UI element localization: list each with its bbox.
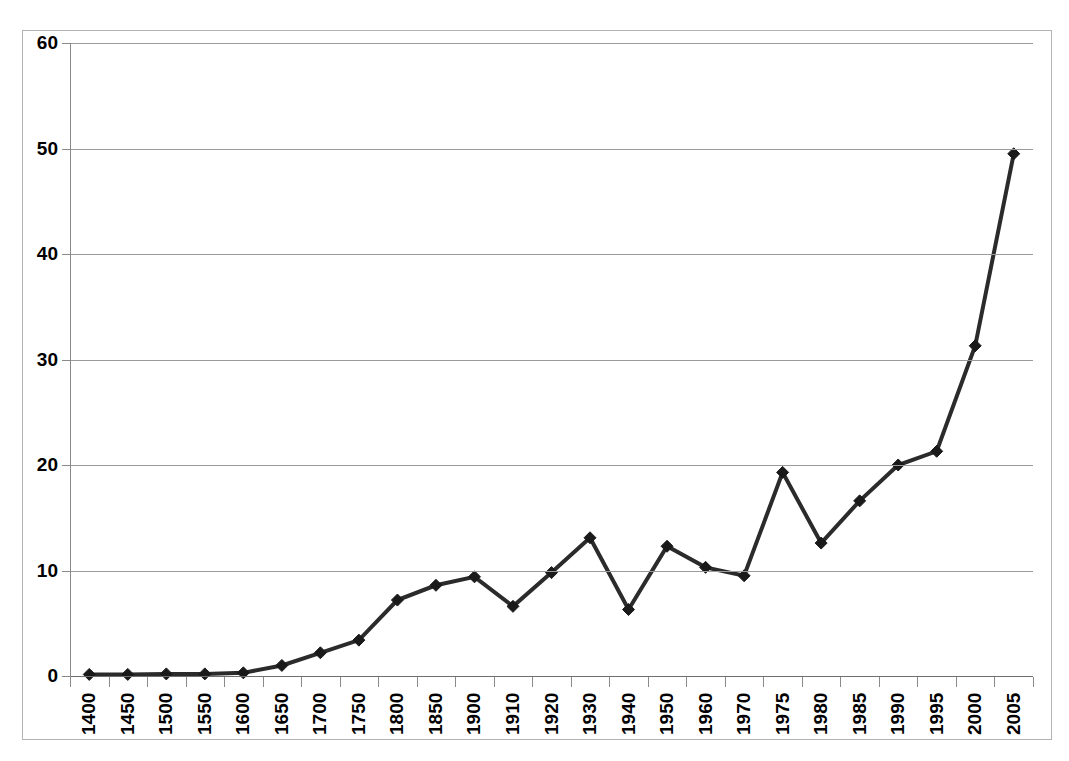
x-axis-tick-16 — [686, 677, 687, 687]
x-axis-tick-14 — [609, 677, 610, 687]
x-axis-label-1550: 1550 — [195, 665, 214, 735]
x-axis-tick-24 — [994, 677, 995, 687]
x-axis-label-1500: 1500 — [156, 665, 175, 735]
x-axis-tick-21 — [879, 677, 880, 687]
x-axis-label-1400: 1400 — [79, 665, 98, 735]
gridline-40 — [70, 254, 1033, 255]
x-axis-tick-12 — [532, 677, 533, 687]
x-axis-tick-13 — [571, 677, 572, 687]
y-axis-tick-60 — [62, 43, 71, 44]
x-axis-label-1750: 1750 — [349, 665, 368, 735]
x-axis-label-1650: 1650 — [272, 665, 291, 735]
x-axis-label-2005: 2005 — [1004, 665, 1023, 735]
x-axis-tick-15 — [648, 677, 649, 687]
x-axis-label-2000: 2000 — [965, 665, 984, 735]
y-axis-label-0: 0 — [18, 666, 58, 685]
data-point-2000 — [969, 340, 981, 352]
line-chart: 0102030405060 14001450150015501600165017… — [0, 0, 1069, 761]
data-point-1995 — [931, 445, 943, 457]
y-axis-label-20: 20 — [18, 455, 58, 474]
x-axis-label-1920: 1920 — [542, 665, 561, 735]
x-axis-tick-23 — [956, 677, 957, 687]
y-axis-label-50: 50 — [18, 139, 58, 158]
x-axis-label-1850: 1850 — [426, 665, 445, 735]
x-axis-tick-17 — [725, 677, 726, 687]
y-axis-label-40: 40 — [18, 244, 58, 263]
x-axis-label-1940: 1940 — [619, 665, 638, 735]
gridline-10 — [70, 571, 1033, 572]
x-axis-tick-25 — [1033, 677, 1034, 687]
x-axis-label-1995: 1995 — [927, 665, 946, 735]
x-axis-label-1970: 1970 — [734, 665, 753, 735]
x-axis-label-1985: 1985 — [850, 665, 869, 735]
y-axis-tick-20 — [62, 465, 71, 466]
x-axis-tick-19 — [802, 677, 803, 687]
x-axis-label-1910: 1910 — [503, 665, 522, 735]
x-axis-label-1975: 1975 — [773, 665, 792, 735]
x-axis-label-1980: 1980 — [811, 665, 830, 735]
x-axis-tick-11 — [494, 677, 495, 687]
y-axis-tick-50 — [62, 149, 71, 150]
data-point-2005 — [1008, 148, 1020, 160]
plot-area — [70, 43, 1033, 676]
x-axis-label-1990: 1990 — [888, 665, 907, 735]
y-axis-label-10: 10 — [18, 561, 58, 580]
x-axis-label-1800: 1800 — [387, 665, 406, 735]
x-axis-label-1930: 1930 — [580, 665, 599, 735]
x-axis-tick-9 — [417, 677, 418, 687]
y-axis-labels: 0102030405060 — [10, 0, 58, 761]
x-axis-tick-4 — [224, 677, 225, 687]
x-axis-tick-22 — [917, 677, 918, 687]
x-axis-label-1600: 1600 — [233, 665, 252, 735]
x-axis-label-1450: 1450 — [118, 665, 137, 735]
gridline-60 — [70, 43, 1033, 44]
x-axis-tick-7 — [340, 677, 341, 687]
x-axis-tick-10 — [455, 677, 456, 687]
x-axis-tick-5 — [263, 677, 264, 687]
data-point-1970 — [738, 570, 750, 582]
gridline-50 — [70, 149, 1033, 150]
gridline-20 — [70, 465, 1033, 466]
x-axis-tick-1 — [109, 677, 110, 687]
y-axis-tick-0 — [62, 676, 71, 677]
y-axis-tick-40 — [62, 254, 71, 255]
y-axis-tick-30 — [62, 360, 71, 361]
x-axis-tick-20 — [840, 677, 841, 687]
y-axis-label-30: 30 — [18, 350, 58, 369]
x-axis-label-1900: 1900 — [464, 665, 483, 735]
x-axis-tick-6 — [301, 677, 302, 687]
x-axis-tick-3 — [186, 677, 187, 687]
x-axis-tick-2 — [147, 677, 148, 687]
x-axis-labels: 1400145015001550160016501700175018001850… — [70, 690, 1033, 760]
x-axis-tick-8 — [378, 677, 379, 687]
x-axis-label-1950: 1950 — [657, 665, 676, 735]
x-axis-label-1960: 1960 — [696, 665, 715, 735]
x-axis-label-1700: 1700 — [310, 665, 329, 735]
data-point-1700 — [314, 647, 326, 659]
x-axis-tick-0 — [70, 677, 71, 687]
data-point-1850 — [430, 579, 442, 591]
y-axis-tick-10 — [62, 571, 71, 572]
y-axis-label-60: 60 — [18, 33, 58, 52]
x-axis-tick-18 — [763, 677, 764, 687]
gridline-30 — [70, 360, 1033, 361]
